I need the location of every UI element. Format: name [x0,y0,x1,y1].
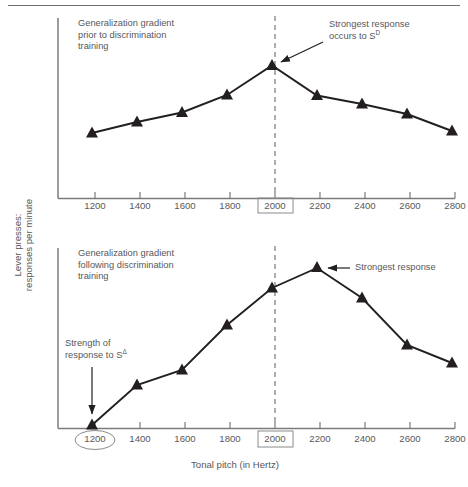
top-panel-title-line1: Generalization gradient [78,18,174,30]
bottom-tick-2400: 2400 [345,433,385,444]
top-tick-2200: 2200 [300,200,340,211]
top-panel-axes [58,18,455,199]
top-tick-1800: 1800 [210,200,250,211]
top-panel-title-line3: training [78,41,109,53]
bottom-panel-title-line3: training [78,271,109,283]
top-tick-2000: 2000 [255,200,295,211]
bottom-panel-title-line1: Generalization gradient [78,248,174,260]
bottom-panel-title-line2: following discrimination [78,260,174,272]
top-tick-1600: 1600 [165,200,205,211]
top-tick-2800: 2800 [435,200,468,211]
top-series-markers [86,59,458,138]
bottom-sdelta-annotation-superscript: Δ [122,347,126,354]
x-axis-label: Tonal pitch (in Hertz) [191,459,279,470]
top-tick-2600: 2600 [390,200,430,211]
top-tick-1200: 1200 [75,200,115,211]
top-annotation-arrow [281,42,323,62]
top-annotation-line2-text: occurs to S [329,31,376,41]
bottom-tick-1200: 1200 [75,433,115,444]
top-series-line [92,66,452,134]
bottom-sdelta-annotation-line2-text: response to S [65,350,122,360]
top-annotation-line1: Strongest response [329,19,410,31]
y-axis-label-line2: responses per minute [23,160,34,330]
bottom-tick-1800: 1800 [210,433,250,444]
bottom-tick-2000: 2000 [255,433,295,444]
y-axis-label-line1: Lever presses: [12,160,23,330]
top-annotation-superscript: D [376,28,381,35]
top-panel-title-line2: prior to discrimination [78,30,166,42]
top-tick-1400: 1400 [120,200,160,211]
top-annotation-line2: occurs to SD [329,31,380,43]
bottom-tick-2600: 2600 [390,433,430,444]
bottom-tick-1400: 1400 [120,433,160,444]
bottom-tick-2800: 2800 [435,433,468,444]
bottom-series-markers [86,261,458,430]
top-tick-2400: 2400 [345,200,385,211]
bottom-strongest-annotation: Strongest response [355,262,436,274]
bottom-tick-1600: 1600 [165,433,205,444]
generalization-gradient-figure [0,0,468,487]
bottom-sdelta-annotation-line1: Strength of [65,338,110,350]
bottom-tick-2200: 2200 [300,433,340,444]
bottom-sdelta-annotation-line2: response to SΔ [65,350,127,362]
